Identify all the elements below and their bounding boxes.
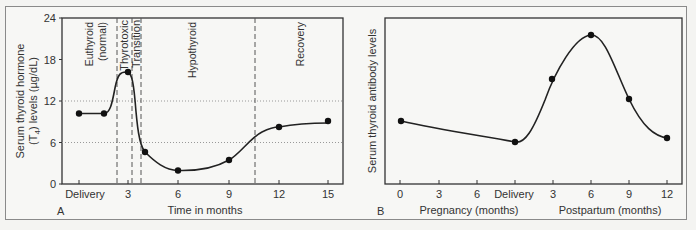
chart-b-xtick: 3 [550,188,556,200]
phase-label-transition: Transition [130,20,142,68]
chart-a-ytick: 0 [50,178,56,190]
svg-text:(T4) levels (µg/dL): (T4) levels (µg/dL) [27,57,42,145]
phase-label-recovery: Recovery [294,21,306,66]
chart-b-xtick: 9 [626,188,632,200]
chart-b-xtick: 12 [661,188,673,200]
chart-a-ytick: 18 [44,54,56,66]
phase-label-hypothyroid: Hypothyroid [186,22,198,78]
chart-b: 0 3 6 Delivery 3 6 9 12 Pregnancy (month… [366,18,682,217]
phase-label-thyrotoxic: Thyrotoxic [118,20,130,71]
chart-a-ytick: 12 [44,95,56,107]
phase-label-normal: (normal) [96,22,108,61]
chart-a-xlabel: Time in months [168,204,243,216]
panel-label-b: B [377,205,384,217]
chart-a-xtick: 9 [226,188,232,200]
chart-b-plot-area [385,18,682,184]
chart-b-xlabel-pregnancy: Pregnancy (months) [419,204,518,216]
panel-label-a: A [57,205,65,217]
chart-b-xtick: 0 [397,188,403,200]
chart-b-xtick: 3 [436,188,442,200]
chart-a-ytick: 24 [44,12,56,24]
chart-a-ylabel: Serum thyroid hormone (T4) levels (µg/dL… [14,44,42,159]
chart-a-xtick: Delivery [65,188,105,200]
svg-text:Serum thyroid hormone: Serum thyroid hormone [14,44,26,159]
chart-a-ytick: 6 [50,137,56,149]
chart-b-xtick: Delivery [494,188,534,200]
chart-b-line [401,35,667,142]
chart-b-ylabel: Serum thyroid antibody levels [366,28,378,173]
chart-a-xtick: 15 [322,188,334,200]
chart-a-xtick: 6 [175,188,181,200]
chart-b-xtick: 6 [588,188,594,200]
figure-svg: 0 6 12 18 24 Delivery 3 6 9 12 15 Time i… [0,0,696,230]
phase-label-euthyroid: Euthyroid [83,22,95,67]
chart-a: 0 6 12 18 24 Delivery 3 6 9 12 15 Time i… [14,12,343,217]
chart-a-line [79,72,328,171]
chart-b-xtick: 6 [474,188,480,200]
chart-b-xlabel-postpartum: Postpartum (months) [559,204,662,216]
chart-a-xtick: 3 [125,188,131,200]
chart-a-xtick: 12 [273,188,285,200]
chart-a-points [76,69,331,174]
